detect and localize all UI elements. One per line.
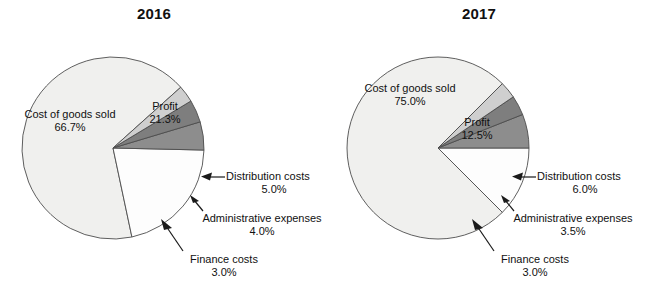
slice-label-administrative-expenses-2016: Administrative expenses 4.0% [198, 212, 326, 238]
slice-label-distribution-costs-2016: Distribution costs 5.0% [226, 170, 326, 196]
slice-label-value: 66.7% [10, 121, 130, 134]
slice-label-value: 12.5% [442, 129, 512, 142]
slice-label-value: 4.0% [198, 225, 326, 238]
slice-label-name: Administrative expenses [509, 212, 637, 225]
slice-label-value: 6.0% [537, 183, 633, 196]
slice-label-cost-of-goods-sold-2017: Cost of goods sold 75.0% [350, 82, 470, 108]
slice-label-name: Profit [130, 100, 200, 113]
slice-label-administrative-expenses-2017: Administrative expenses 3.5% [509, 212, 637, 238]
slice-label-name: Finance costs [490, 253, 580, 266]
slice-label-name: Cost of goods sold [350, 82, 470, 95]
slice-label-cost-of-goods-sold-2016: Cost of goods sold 66.7% [10, 108, 130, 134]
chart-panel-2016: 2016 Cost of goods sold 66.7% Profit 21.… [0, 0, 326, 294]
slice-label-finance-costs-2017: Finance costs 3.0% [490, 253, 580, 279]
slice-label-value: 3.5% [509, 225, 637, 238]
slice-label-name: Finance costs [179, 253, 269, 266]
slice-label-name: Distribution costs [537, 170, 642, 183]
callout-arrowhead-distribution-costs [201, 173, 212, 181]
slice-label-distribution-costs-2017: Distribution costs 6.0% [537, 170, 642, 196]
slice-label-name: Distribution costs [226, 170, 326, 183]
slice-label-name: Profit [442, 116, 512, 129]
slice-label-value: 21.3% [130, 113, 200, 126]
slice-label-value: 5.0% [226, 183, 322, 196]
pie-svg-2016 [0, 0, 326, 294]
callout-line-finance-costs [166, 226, 183, 251]
slice-label-value: 3.0% [490, 266, 580, 279]
callout-line-finance-costs [477, 226, 494, 251]
pie-svg-2017 [326, 0, 652, 294]
slice-label-finance-costs-2016: Finance costs 3.0% [179, 253, 269, 279]
slice-label-profit-2016: Profit 21.3% [130, 100, 200, 126]
chart-panel-2017: 2017 Cost of goods sold 75.0% Profit 12.… [326, 0, 652, 294]
slice-label-profit-2017: Profit 12.5% [442, 116, 512, 142]
callout-arrowhead-administrative-expenses [190, 195, 199, 203]
slice-label-name: Administrative expenses [198, 212, 326, 225]
pie-slices-2016 [22, 57, 204, 239]
slice-label-name: Cost of goods sold [10, 108, 130, 121]
pie-chart-figure: 2016 Cost of goods sold 66.7% Profit 21.… [0, 0, 652, 294]
slice-label-value: 3.0% [179, 266, 269, 279]
slice-label-value: 75.0% [350, 95, 470, 108]
